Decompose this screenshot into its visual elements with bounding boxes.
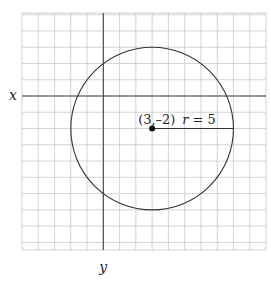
x-axis-label: x — [9, 87, 17, 103]
center-label: (3,–2) — [138, 112, 175, 127]
radius-label-eq: = 5 — [188, 112, 215, 127]
y-axis-label: y — [98, 259, 108, 275]
radius-label: r = 5 — [182, 112, 216, 127]
coordinate-plane: x y (3,–2) r = 5 — [0, 0, 271, 281]
grid-lines — [22, 13, 266, 250]
